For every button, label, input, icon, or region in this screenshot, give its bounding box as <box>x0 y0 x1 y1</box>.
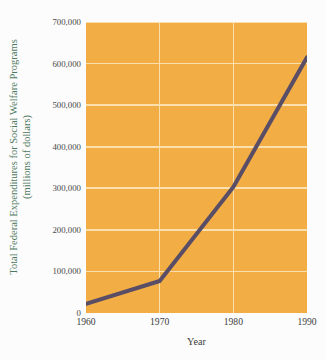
x-axis-tick-labels: 1960197019801990 <box>0 316 326 334</box>
y-axis-tick-label: 400,000 <box>52 142 81 152</box>
y-axis-tick-label: 600,000 <box>52 59 81 69</box>
plot-area <box>86 22 307 313</box>
y-axis-title-line2: (millions of dollars) <box>20 39 33 275</box>
y-axis-tick-label: 200,000 <box>52 225 81 235</box>
data-series-line <box>86 22 307 313</box>
y-axis-title: Total Federal Expenditures for Social We… <box>0 0 40 313</box>
y-axis-tick-label: 300,000 <box>52 183 81 193</box>
y-axis-tick-label: 500,000 <box>52 100 81 110</box>
y-axis-title-line1: Total Federal Expenditures for Social We… <box>8 39 19 275</box>
x-axis-title: Year <box>86 336 307 347</box>
x-axis-tick-label: 1980 <box>224 316 243 327</box>
x-axis-tick-label: 1990 <box>297 316 316 327</box>
y-axis-tick-labels: 0100,000200,000300,000400,000500,000600,… <box>38 0 84 326</box>
y-axis-tick-label: 700,000 <box>52 17 81 27</box>
x-axis-tick-label: 1960 <box>76 316 95 327</box>
x-axis-tick-label: 1970 <box>150 316 169 327</box>
y-axis-tick-label: 100,000 <box>52 266 81 276</box>
chart-figure: Total Federal Expenditures for Social We… <box>0 0 326 360</box>
